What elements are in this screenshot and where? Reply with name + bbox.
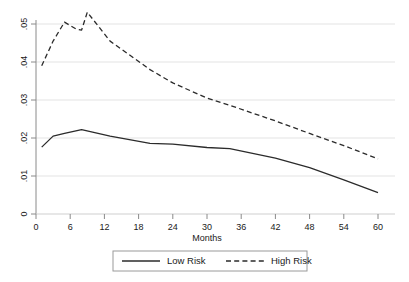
legend-label-low-risk: Low Risk bbox=[167, 255, 206, 266]
x-tick-label-18: 18 bbox=[134, 222, 144, 232]
y-tick-label-04: .04 bbox=[19, 56, 29, 69]
x-tick-label-24: 24 bbox=[168, 222, 178, 232]
legend-label-high-risk: High Risk bbox=[271, 255, 312, 266]
x-tick-label-54: 54 bbox=[339, 222, 349, 232]
y-tick-label-02: .02 bbox=[19, 132, 29, 145]
x-tick-label-48: 48 bbox=[305, 222, 315, 232]
legend: Low Risk High Risk bbox=[113, 251, 312, 271]
x-tick-label-42: 42 bbox=[270, 222, 280, 232]
x-tick-label-6: 6 bbox=[68, 222, 73, 232]
x-tick-label-12: 12 bbox=[99, 222, 109, 232]
x-tick-label-36: 36 bbox=[236, 222, 246, 232]
y-tick-label-0: 0 bbox=[19, 211, 29, 216]
chart-figure: .05 .04 .03 .02 .01 0 0 6 12 18 bbox=[0, 0, 409, 282]
y-tick-label-05: .05 bbox=[19, 18, 29, 31]
x-tick-label-30: 30 bbox=[202, 222, 212, 232]
y-tick-label-01: .01 bbox=[19, 170, 29, 183]
x-axis-title: Months bbox=[192, 233, 222, 243]
y-tick-label-03: .03 bbox=[19, 94, 29, 107]
line-chart: .05 .04 .03 .02 .01 0 0 6 12 18 bbox=[0, 0, 409, 282]
x-tick-label-0: 0 bbox=[33, 222, 38, 232]
x-tick-label-60: 60 bbox=[373, 222, 383, 232]
